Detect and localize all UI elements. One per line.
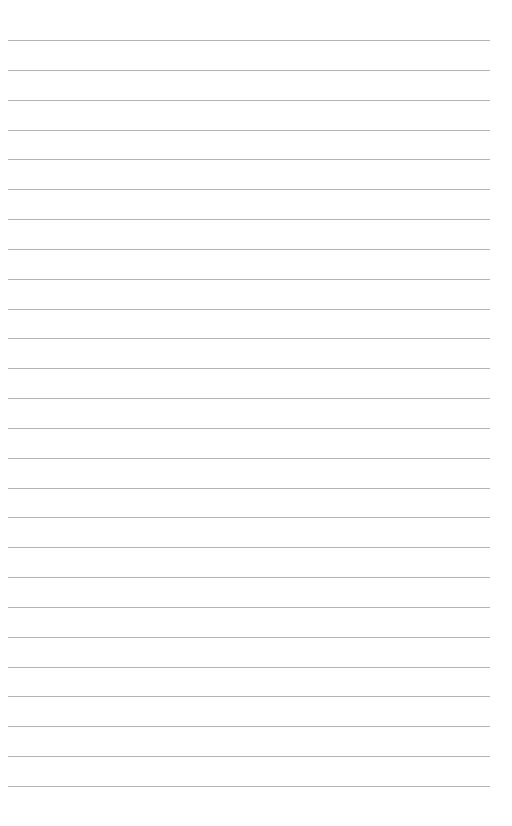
ruled-line [8, 189, 490, 190]
ruled-line [8, 488, 490, 489]
ruled-line [8, 696, 490, 697]
ruled-line [8, 667, 490, 668]
ruled-line [8, 309, 490, 310]
ruled-line [8, 786, 490, 787]
ruled-line [8, 130, 490, 131]
ruled-line [8, 368, 490, 369]
ruled-line [8, 607, 490, 608]
ruled-line [8, 159, 490, 160]
lined-page [0, 0, 512, 826]
ruled-line [8, 726, 490, 727]
ruled-line [8, 547, 490, 548]
ruled-line [8, 100, 490, 101]
ruled-line [8, 577, 490, 578]
ruled-line [8, 428, 490, 429]
ruled-line [8, 40, 490, 41]
ruled-line [8, 637, 490, 638]
ruled-line [8, 398, 490, 399]
ruled-line [8, 338, 490, 339]
ruled-line [8, 249, 490, 250]
ruled-line [8, 517, 490, 518]
ruled-line [8, 70, 490, 71]
ruled-line [8, 756, 490, 757]
ruled-line [8, 219, 490, 220]
ruled-line [8, 458, 490, 459]
ruled-line [8, 279, 490, 280]
